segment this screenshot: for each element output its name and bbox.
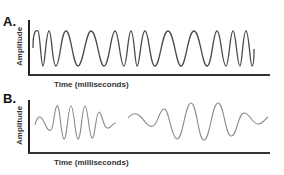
panel-b-packet-2 [128, 103, 268, 140]
panel-b-packet-1 [35, 106, 116, 139]
panel-b-waveform [0, 0, 284, 175]
